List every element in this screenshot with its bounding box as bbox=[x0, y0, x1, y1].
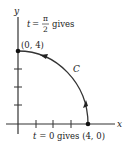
start-point-annotation: t = 0 gives (4, 0) bbox=[33, 131, 105, 141]
end-frac-num: π bbox=[43, 14, 48, 23]
y-axis-label: y bbox=[13, 6, 20, 16]
end-eq: = bbox=[32, 19, 39, 29]
curve-c bbox=[18, 51, 88, 124]
start-point-label: (4, 0) bbox=[82, 131, 105, 141]
arrow-up-icon bbox=[83, 100, 88, 108]
curve-label: C bbox=[73, 64, 80, 74]
start-param: t bbox=[33, 131, 37, 141]
point-4-0 bbox=[86, 122, 91, 127]
parametric-curve-diagram: y x (0, 4) t = 0 gives (4, 0) t = π 2 gi… bbox=[0, 0, 135, 147]
end-frac-den: 2 bbox=[43, 25, 48, 34]
end-point-label: (0, 4) bbox=[21, 40, 44, 50]
start-eq: = 0 gives bbox=[39, 131, 79, 141]
end-suffix: gives bbox=[52, 19, 74, 29]
point-0-4 bbox=[16, 49, 21, 54]
x-axis-label: x bbox=[117, 119, 122, 129]
end-param: t bbox=[27, 19, 31, 29]
